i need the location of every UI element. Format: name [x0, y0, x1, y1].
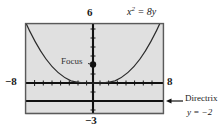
focus-leader-line	[88, 64, 91, 65]
focus-label: Focus	[61, 57, 83, 66]
x-axis-max-label: 8	[167, 76, 173, 87]
x-axis-min-label: −8	[5, 76, 17, 87]
directrix-equation-label: y = −2	[187, 108, 212, 117]
curve-left-mask	[0, 0, 26, 132]
y-axis-max-label: 6	[87, 7, 93, 18]
y-axis-min-label: −3	[85, 115, 97, 126]
equation-label: x2 = 8y	[127, 6, 156, 17]
parabola-figure: x2 = 8y 6 −3 −8 8 Focus Directrix y = −2	[0, 0, 223, 132]
directrix-label: Directrix	[185, 94, 217, 103]
